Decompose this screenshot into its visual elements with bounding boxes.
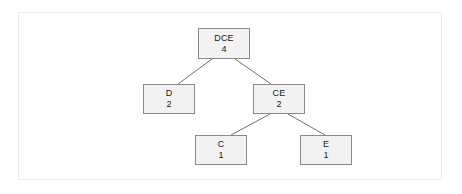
tree-node-c[interactable]: C1	[195, 135, 247, 165]
tree-node-label: DCE	[214, 33, 234, 44]
tree-node-weight: 2	[166, 99, 171, 110]
tree-node-root[interactable]: DCE4	[198, 28, 250, 59]
tree-node-weight: 4	[221, 44, 226, 55]
diagram-canvas: DCE4D2CE2C1E1	[0, 0, 462, 194]
tree-node-label: E	[323, 139, 329, 150]
tree-node-weight: 2	[276, 99, 281, 110]
tree-node-weight: 1	[218, 150, 223, 161]
tree-node-label: C	[218, 139, 225, 150]
tree-node-label: D	[166, 88, 173, 99]
tree-node-e[interactable]: E1	[300, 135, 352, 165]
tree-node-ce[interactable]: CE2	[253, 84, 305, 114]
tree-node-d[interactable]: D2	[143, 84, 195, 114]
tree-node-label: CE	[273, 88, 286, 99]
tree-node-weight: 1	[323, 150, 328, 161]
